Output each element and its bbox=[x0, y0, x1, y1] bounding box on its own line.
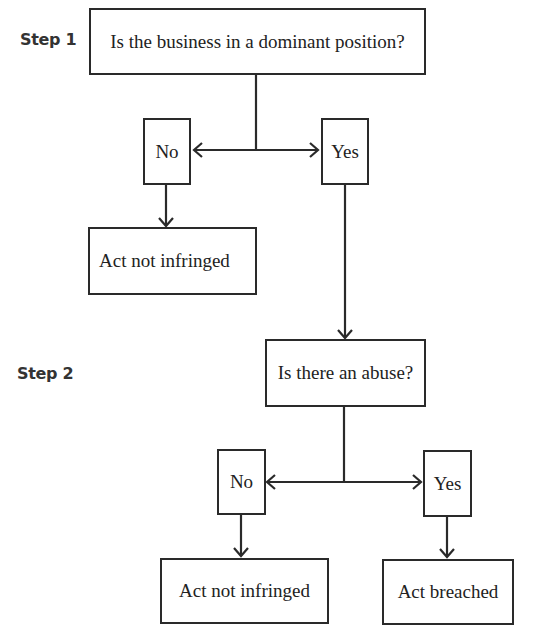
step-1-question-box: Is the business in a dominant position? bbox=[89, 8, 426, 75]
step-2-no-box: No bbox=[217, 449, 266, 515]
connector-lines bbox=[0, 0, 547, 644]
step-1-no-outcome-box: Act not infringed bbox=[88, 227, 257, 295]
step-2-no-outcome-box: Act not infringed bbox=[160, 558, 329, 624]
step-2-yes-box: Yes bbox=[423, 450, 472, 517]
step-2-label: Step 2 bbox=[17, 364, 73, 383]
step-1-yes-box: Yes bbox=[321, 118, 369, 185]
step-2-question-box: Is there an abuse? bbox=[265, 339, 426, 407]
step-1-label: Step 1 bbox=[20, 30, 76, 49]
step-1-no-box: No bbox=[143, 118, 191, 185]
step-2-yes-outcome-box: Act breached bbox=[382, 559, 514, 625]
